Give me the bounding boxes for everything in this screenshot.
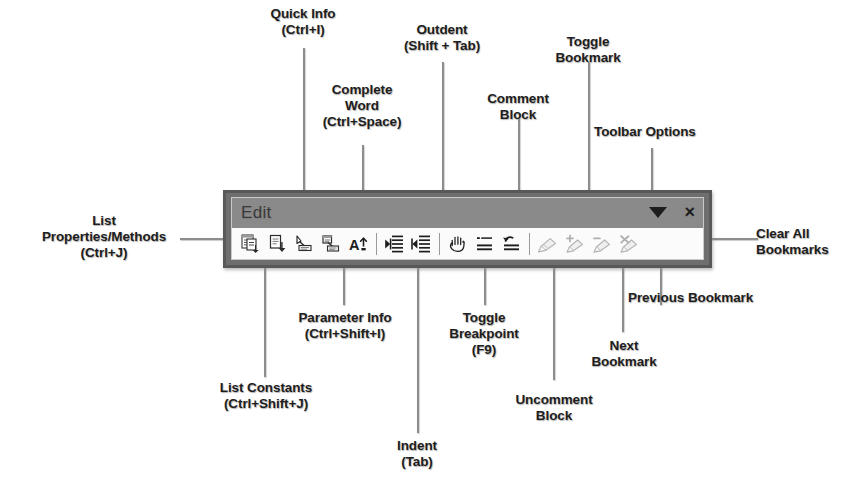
list-constants-icon [268, 234, 288, 254]
toolbar-title: Edit [241, 203, 272, 223]
label-outdent: Outdent (Shift + Tab) [372, 22, 512, 54]
list-properties-methods-icon [241, 234, 261, 254]
toolbar-button-complete-word[interactable]: A [345, 231, 372, 257]
toolbar-button-toggle-bookmark[interactable] [534, 231, 561, 257]
label-toolbar-options: Toolbar Options [594, 124, 744, 140]
label-list-constants: List Constants (Ctrl+Shift+J) [196, 380, 336, 412]
triangle-down-icon[interactable] [649, 207, 667, 218]
toolbar-separator-1 [372, 231, 381, 257]
leader-line-next-bookmark [622, 265, 624, 332]
toolbar-button-next-bookmark[interactable] [561, 231, 588, 257]
label-complete-word: Complete Word (Ctrl+Space) [292, 82, 432, 130]
toolbar-button-comment-block[interactable] [471, 231, 498, 257]
leader-line-parameter-info [343, 265, 345, 305]
toolbar-titlebar[interactable]: Edit × [232, 198, 703, 228]
toolbar-button-list-properties-methods[interactable] [237, 231, 264, 257]
leader-line-toggle-breakpoint [484, 265, 486, 305]
svg-text:A: A [349, 236, 360, 252]
label-clear-all-bookmarks: Clear All Bookmarks [756, 226, 841, 258]
toolbar-button-clear-all-bookmarks[interactable] [615, 231, 642, 257]
comment-block-icon [474, 234, 495, 254]
toolbar-button-uncomment-block[interactable] [498, 231, 525, 257]
label-toggle-breakpoint: Toggle Breakpoint (F9) [424, 310, 544, 358]
toolbar-separator-2 [435, 231, 444, 257]
bookmark-icon [537, 234, 559, 254]
label-toggle-bookmark: Toggle Bookmark [528, 34, 648, 66]
next-bookmark-icon [563, 234, 586, 254]
leader-line-uncomment-block [553, 265, 555, 380]
toolbar-button-toggle-breakpoint[interactable] [444, 231, 471, 257]
toolbar-icon-strip: A [232, 228, 703, 259]
label-indent: Indent (Tab) [367, 438, 467, 470]
edit-toolbar[interactable]: Edit × [223, 190, 712, 268]
quick-info-icon [294, 234, 315, 254]
label-previous-bookmark: Previous Bookmark [628, 290, 808, 306]
uncomment-block-icon [501, 234, 522, 254]
toolbar-separator-3 [525, 231, 534, 257]
parameter-info-icon [321, 234, 342, 254]
toolbar-button-outdent[interactable] [408, 231, 435, 257]
label-parameter-info: Parameter Info (Ctrl+Shift+I) [275, 310, 415, 342]
indent-icon [384, 234, 405, 254]
label-list-properties-methods: List Properties/Methods (Ctrl+J) [28, 213, 180, 261]
label-uncomment-block: Uncomment Block [498, 392, 610, 424]
leader-line-toolbar-options [651, 148, 653, 193]
toolbar-button-list-constants[interactable] [264, 231, 291, 257]
outdent-icon [411, 234, 432, 254]
previous-bookmark-icon [590, 234, 613, 254]
complete-word-icon: A [348, 234, 370, 254]
toolbar-inner: Edit × [231, 197, 704, 260]
leader-line-list-constants [264, 265, 266, 377]
toolbar-button-previous-bookmark[interactable] [588, 231, 615, 257]
label-quick-info: Quick Info (Ctrl+I) [223, 6, 383, 38]
toolbar-button-quick-info[interactable] [291, 231, 318, 257]
hand-breakpoint-icon [448, 234, 468, 254]
label-next-bookmark: Next Bookmark [568, 338, 680, 370]
leader-line-indent [417, 265, 419, 433]
clear-all-bookmarks-icon [617, 234, 640, 254]
close-icon[interactable]: × [684, 201, 695, 223]
label-comment-block: Comment Block [458, 91, 578, 123]
toolbar-button-indent[interactable] [381, 231, 408, 257]
toolbar-button-parameter-info[interactable] [318, 231, 345, 257]
